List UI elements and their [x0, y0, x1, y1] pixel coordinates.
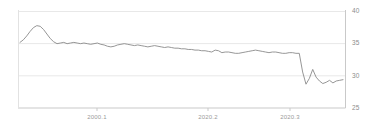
axis-lines: [18, 10, 346, 108]
x-axis-tick-label: 2020.2: [198, 114, 218, 120]
y-axis-tick-label: 35: [352, 40, 360, 47]
chart-plot-area: [0, 0, 380, 130]
x-axis-tick-label: 2000.1: [87, 114, 107, 120]
x-axis-tick-label: 2020.3: [280, 114, 300, 120]
y-axis-tick-label: 30: [352, 73, 360, 80]
line-chart: 40353025 2000.12020.22020.3: [0, 0, 380, 130]
y-axis-tick-label: 25: [352, 105, 360, 112]
y-axis-tick-label: 40: [352, 8, 360, 15]
